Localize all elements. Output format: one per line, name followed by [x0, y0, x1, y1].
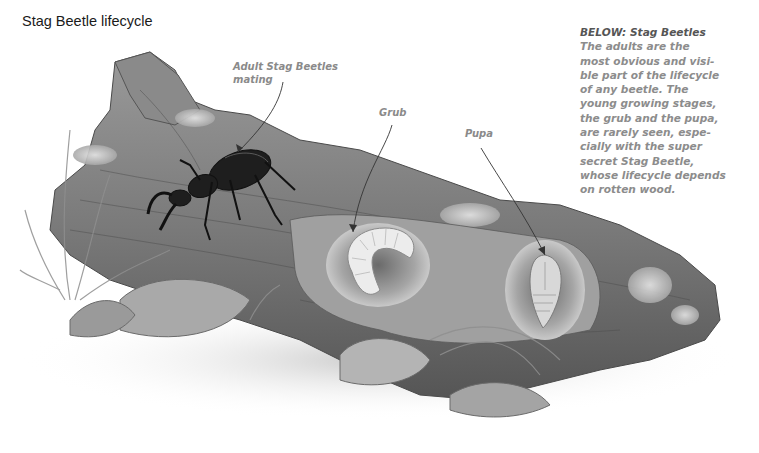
caption-block: BELOW: Stag Beetles The adults are the m… — [580, 25, 758, 197]
caption-heading: BELOW: Stag Beetles — [580, 25, 758, 39]
page-title: Stag Beetle lifecycle — [22, 13, 153, 29]
caption-line: on rotten wood. — [580, 182, 758, 196]
caption-line: are rarely seen, espe- — [580, 125, 758, 139]
label-pupa: Pupa — [465, 127, 493, 140]
label-adult-line-2: mating — [233, 73, 338, 86]
caption-line: of any beetle. The — [580, 82, 758, 96]
caption-line: The adults are the — [580, 39, 758, 53]
caption-line: ble part of the lifecycle — [580, 68, 758, 82]
caption-line: cially with the super — [580, 139, 758, 153]
caption-line: the grub and the pupa, — [580, 111, 758, 125]
caption-line: most obvious and visi- — [580, 54, 758, 68]
caption-line: secret Stag Beetle, — [580, 154, 758, 168]
label-adult-stag-beetles: Adult Stag Beetles mating — [233, 60, 338, 86]
label-adult-line-1: Adult Stag Beetles — [233, 60, 338, 73]
page: Stag Beetle lifecycle Adult Stag Beetles… — [0, 0, 759, 453]
caption-line: young growing stages, — [580, 96, 758, 110]
label-grub: Grub — [379, 106, 406, 119]
caption-line: whose lifecycle depends — [580, 168, 758, 182]
